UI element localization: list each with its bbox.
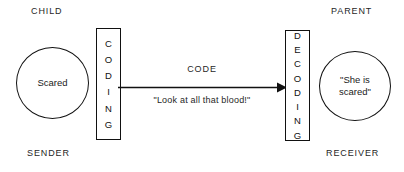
coding-letter: G bbox=[105, 120, 112, 130]
communication-diagram: CHILD PARENT SENDER RECEIVER Scared C O … bbox=[0, 0, 404, 172]
label-sender: SENDER bbox=[27, 148, 70, 158]
receiver-node-circle: "She is scared" bbox=[319, 51, 391, 121]
decoding-letter: O bbox=[294, 74, 301, 84]
decoding-box-label: D E C O D I N G bbox=[294, 28, 301, 142]
decoding-letter: E bbox=[294, 45, 300, 55]
decoding-box: D E C O D I N G bbox=[285, 30, 310, 141]
label-receiver: RECEIVER bbox=[326, 148, 379, 158]
decoding-letter: G bbox=[294, 131, 301, 141]
sender-node-text: Scared bbox=[37, 77, 67, 89]
label-child: CHILD bbox=[31, 6, 63, 16]
coding-letter: O bbox=[105, 55, 112, 65]
label-parent: PARENT bbox=[331, 6, 372, 16]
coding-letter: N bbox=[105, 104, 112, 114]
decoding-letter: C bbox=[294, 59, 301, 69]
decoding-letter: D bbox=[294, 31, 301, 41]
decoding-letter: N bbox=[294, 116, 301, 126]
decoding-letter: I bbox=[296, 102, 299, 112]
coding-box-label: C O D I N G bbox=[105, 35, 112, 133]
decoding-letter: D bbox=[294, 88, 301, 98]
coding-letter: C bbox=[105, 39, 112, 49]
sender-node-circle: Scared bbox=[16, 47, 89, 119]
receiver-node-text: "She is scared" bbox=[339, 74, 371, 98]
